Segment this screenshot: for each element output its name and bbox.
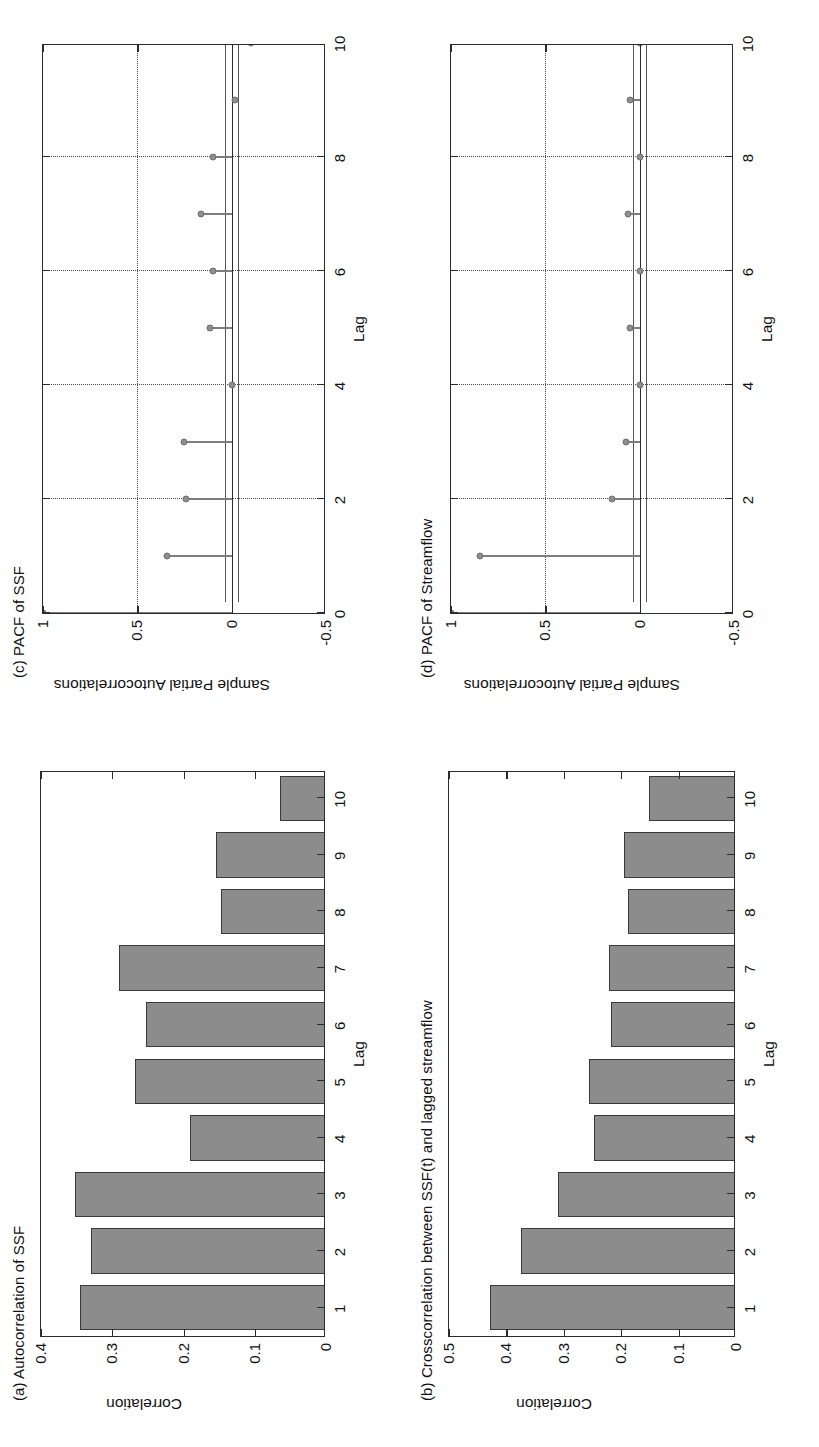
panel-b-x-ticklabel: 6 [741,1022,758,1030]
panel-b-y-tick [564,772,565,779]
panel-c-zero-line [232,45,233,613]
panel-c-plot-area [43,45,324,613]
panel-d-y-tick [545,45,546,52]
panel-c-stem-marker [198,211,205,218]
panel-c-y-tick [232,45,233,52]
panel-c-y-tick [43,45,44,52]
panel-b-x-ticklabel: 9 [741,852,758,860]
panel-b-x-ticklabel: 1 [741,1305,758,1313]
panel-b-y-ticklabel: 0.3 [554,1343,571,1383]
panel-d-x-tick [451,384,458,385]
panel-a-bar [80,1285,324,1330]
panel-b-bar [594,1115,734,1160]
panel-c-x-tick [317,498,324,499]
panel-c-stem [167,555,232,556]
panel-b-x-axis-label: Lag [760,1041,778,1067]
panel-a-x-tick [317,910,324,911]
panel-d-stem [612,498,639,499]
panel-b-x-ticklabel: 7 [741,965,758,973]
panel-a-x-tick [317,967,324,968]
panel-a-x-tick [317,1080,324,1081]
panel-c-x-tick [317,156,324,157]
panel-d-gridline-vertical [451,156,732,157]
panel-a-autocorrelation-ssf: (a) Autocorrelation of SSF 12345678910 0… [0,724,410,1447]
panel-c-stem-marker [180,439,187,446]
panel-a-x-tick [317,1307,324,1308]
panel-c-x-ticklabel: 2 [331,496,348,504]
panel-b-bar [490,1285,734,1330]
panel-d-x-ticklabel: 10 [739,36,756,53]
panel-c-stem-marker [247,45,254,47]
panel-b-x-tick [727,1024,734,1025]
panel-a-y-tick [41,1329,42,1336]
panel-b-bar [611,1002,734,1047]
panel-c-x-tick [43,270,50,271]
panel-d-stem-marker [627,97,634,104]
panel-d-y-ticklabel: -0.5 [725,620,742,666]
panel-d-y-tick [545,606,546,613]
panel-d-confidence-bound [633,45,634,602]
panel-c-stem-marker [209,268,216,275]
panel-c-stem-marker [209,154,216,161]
panel-c-y-ticklabel: -0.5 [317,620,334,666]
panel-d-stem-marker [636,154,643,161]
panel-c-pacf-ssf: (c) PACF of SSF 0246810 -0.500.51 Lag Sa… [0,0,410,724]
panel-b-y-ticklabel: 0.2 [612,1343,629,1383]
panel-b-y-tick [621,1329,622,1336]
panel-d-stem-marker [636,268,643,275]
panel-d-gridline-horizontal [545,45,546,613]
panel-a-x-ticklabel: 3 [331,1191,348,1199]
panel-a-bar [91,1228,324,1273]
panel-d-y-tick [640,606,641,613]
panel-b-bar [649,776,734,821]
panel-b-x-tick [727,1193,734,1194]
panel-b-y-tick [564,1329,565,1336]
panel-d-gridline-vertical [451,384,732,385]
panel-a-x-ticklabel: 10 [331,791,348,808]
panel-c-stem [201,213,231,214]
panel-d-x-tick [725,156,732,157]
panel-d-zero-line [640,45,641,613]
panel-b-y-tick [449,1329,450,1336]
panel-a-y-tick [255,1329,256,1336]
panel-d-stem [480,555,639,556]
panel-c-stem-marker [228,382,235,389]
panel-b-bar [609,945,734,990]
panel-c-stem-marker [206,325,213,332]
panel-a-bar [216,832,324,877]
panel-a-x-ticklabel: 7 [331,965,348,973]
panel-d-x-tick [451,156,458,157]
panel-b-bar [624,832,735,877]
panel-a-x-ticklabel: 8 [331,908,348,916]
panel-b-x-tick [727,967,734,968]
panel-b-y-ticklabel: 0 [727,1343,744,1383]
panel-d-plot-area [451,45,732,613]
panel-b-axes [448,771,735,1337]
panel-c-y-tick [137,606,138,613]
panel-d-y-ticklabel: 0 [630,620,647,666]
panel-c-x-tick [43,156,50,157]
panel-b-crosscorrelation: (b) Crosscorrelation between SSF(t) and … [410,724,819,1447]
panel-a-y-tick [184,1329,185,1336]
panel-a-bar [221,889,324,934]
panel-c-x-ticklabel: 10 [331,36,348,53]
panel-c-stem [186,498,231,499]
panel-b-plot-area [449,772,734,1336]
panel-c-y-axis-label: Sample Partial Autocorrelations [54,676,270,694]
panel-d-stem-marker [627,325,634,332]
panel-b-y-ticklabel: 0.5 [440,1343,457,1383]
panel-c-axes [42,44,325,614]
panel-b-y-ticklabel: 0.4 [497,1343,514,1383]
panel-c-x-tick [317,270,324,271]
panel-b-x-tick [727,854,734,855]
panel-d-stem-marker [622,439,629,446]
panel-b-x-tick [727,797,734,798]
panel-a-x-ticklabel: 1 [331,1305,348,1313]
panel-d-y-tick [640,45,641,52]
panel-a-y-tick [41,772,42,779]
panel-a-x-ticklabel: 6 [331,1022,348,1030]
panel-b-y-tick [621,772,622,779]
panel-c-y-ticklabel: 0.5 [128,620,145,666]
panel-d-y-ticklabel: 1 [442,620,459,666]
panel-d-x-tick [451,498,458,499]
